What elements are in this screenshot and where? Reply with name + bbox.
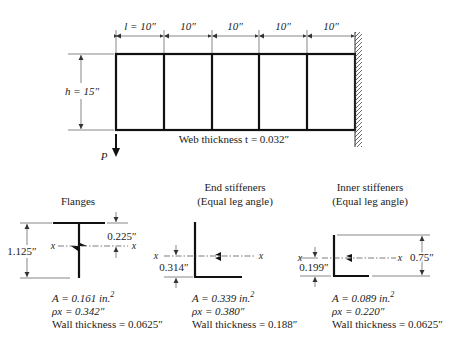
panel-dimension-arrows (116, 34, 354, 39)
end-axis-x-right: x (258, 250, 264, 261)
end-stiffener-subtitle: (Equal leg angle) (197, 195, 273, 208)
end-offset-label: 0.314″ (159, 261, 188, 273)
inner-offset-label: 0.199″ (299, 261, 328, 273)
inner-stiffener-section: Inner stiffeners (Equal leg angle) x 0.7… (297, 181, 443, 330)
panel-label-3: 10″ (227, 20, 243, 32)
panel-label-2: 10″ (180, 20, 196, 32)
height-label: h = 15″ (65, 85, 99, 97)
load-arrow: P (100, 134, 120, 162)
flange-offset-label: 0.225″ (107, 230, 136, 242)
web-thickness-label: Web thickness t = 0.032″ (179, 133, 289, 145)
panel-label-4: 10″ (275, 20, 291, 32)
dimension-extension-lines (116, 30, 307, 54)
end-wall-thickness: Wall thickness = 0.188″ (192, 318, 297, 330)
inner-radius-of-gyration: ρx = 0.220″ (331, 305, 385, 317)
flange-radius-of-gyration: ρx = 0.342″ (51, 305, 105, 317)
fixed-wall (355, 32, 362, 147)
end-stiffener-section: End stiffeners (Equal leg angle) x x 0.3… (153, 181, 297, 330)
end-stiffener-title: End stiffeners (204, 181, 265, 193)
flange-axis-x-left: x (50, 240, 56, 251)
stiffened-beam-diagram: l = 10″ 10″ 10″ 10″ 10″ h = 15″ We (0, 0, 458, 344)
load-label: P (100, 150, 108, 162)
inner-wall-thickness: Wall thickness = 0.0625″ (332, 318, 443, 330)
flange-title: Flanges (61, 195, 95, 207)
height-dimension: h = 15″ (64, 54, 114, 130)
flange-depth-label: 1.125″ (7, 245, 36, 257)
end-radius-of-gyration: ρx = 0.380″ (191, 305, 245, 317)
panel-label-1: l = 10″ (124, 20, 156, 32)
flange-section: Flanges x x 1.125″ 0.225″ A = 0.161 in.2… (2, 195, 163, 330)
flange-area: A = 0.161 in.2 (51, 290, 114, 304)
inner-stiffener-subtitle: (Equal leg angle) (332, 195, 408, 208)
beam-frame (116, 54, 355, 130)
panel-label-5: 10″ (323, 20, 339, 32)
beam-elevation: l = 10″ 10″ 10″ 10″ 10″ h = 15″ We (64, 20, 362, 162)
inner-axis-x-right: x (397, 252, 403, 263)
flange-wall-thickness: Wall thickness = 0.0625″ (52, 318, 163, 330)
end-area: A = 0.339 in.2 (191, 290, 254, 304)
inner-area: A = 0.089 in.2 (331, 290, 394, 304)
inner-leg-label: 0.75″ (410, 251, 434, 263)
end-axis-x-left: x (153, 250, 159, 261)
inner-stiffener-title: Inner stiffeners (337, 181, 404, 193)
